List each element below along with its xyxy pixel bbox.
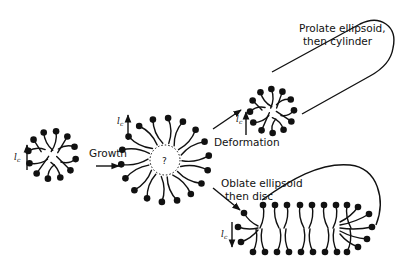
polar-head-group	[280, 126, 287, 133]
polar-head-group	[257, 89, 264, 96]
surfactant-molecules	[25, 128, 79, 182]
chain-length-arrow: lc	[14, 145, 27, 170]
polar-head-group	[201, 138, 208, 145]
polar-head-group	[288, 118, 295, 125]
hydrocarbon-tail	[309, 229, 313, 252]
hydrocarbon-tail	[309, 205, 313, 228]
polar-head-group	[272, 202, 279, 209]
polar-head-group	[192, 127, 199, 134]
polar-head-group	[53, 128, 60, 135]
surfactant-molecules	[235, 202, 376, 256]
hydrocarbon-tail	[167, 177, 177, 201]
polar-head-group	[260, 202, 267, 209]
polar-head-group	[122, 175, 129, 182]
hydrocarbon-tail	[333, 229, 337, 252]
polar-head-group	[291, 107, 298, 114]
polar-head-group	[64, 133, 71, 140]
polar-head-group	[322, 249, 329, 256]
polar-head-group	[366, 211, 373, 218]
polar-head-group	[334, 249, 341, 256]
grown-spherical-micelle: ? lc	[117, 115, 212, 205]
polar-head-group	[258, 127, 265, 134]
polar-head-group	[174, 197, 181, 204]
prolate-micelle: Prolate ellipsoid, then cylinder lc	[236, 20, 394, 136]
small-spherical-micelle: lc	[14, 128, 79, 182]
polar-head-group	[131, 187, 138, 194]
chain-length-label: lc	[14, 152, 21, 163]
polar-head-group	[159, 199, 166, 206]
hydrocarbon-tail	[173, 175, 191, 194]
oblate-label-line2: then disc	[225, 190, 273, 202]
polar-head-group	[188, 191, 195, 198]
hydrocarbon-tail	[340, 227, 372, 229]
polar-head-group	[45, 175, 52, 182]
polar-head-group	[369, 224, 376, 231]
chain-length-arrow: lc	[236, 112, 246, 135]
hydrocarbon-tail	[161, 177, 164, 202]
polar-head-group	[241, 210, 248, 217]
hydrocarbon-tail	[284, 205, 288, 228]
hydrocarbon-tail	[168, 118, 171, 143]
polar-head-group	[355, 244, 362, 251]
oblate-micelle: Oblate ellipsoid then disc lc	[221, 165, 380, 256]
polar-head-group	[165, 115, 172, 122]
polar-head-group	[136, 123, 143, 130]
polar-head-group	[310, 249, 317, 256]
prolate-label-line1: Prolate ellipsoid,	[299, 22, 386, 34]
polar-head-group	[33, 170, 40, 177]
polar-head-group	[67, 167, 74, 174]
hydrocarbon-tail	[301, 229, 305, 252]
polar-head-group	[150, 116, 157, 123]
hydrocarbon-tail	[174, 122, 183, 146]
polar-head-group	[204, 167, 211, 174]
hydrocarbon-tail	[285, 229, 289, 252]
polar-head-group	[57, 174, 64, 181]
oblate-label-line1: Oblate ellipsoid	[221, 177, 303, 189]
surfactant-molecules	[247, 86, 298, 137]
polar-head-group	[250, 249, 257, 256]
hydrocarbon-tail	[277, 229, 281, 252]
polar-head-group	[119, 146, 126, 153]
polar-head-group	[344, 202, 351, 209]
polar-head-group	[235, 224, 242, 231]
polar-head-group	[268, 86, 275, 93]
hydrocarbon-tail	[333, 205, 337, 228]
polar-head-group	[344, 249, 351, 256]
polar-head-group	[279, 88, 286, 95]
polar-head-group	[333, 202, 340, 209]
polar-head-group	[30, 136, 37, 143]
polar-head-group	[297, 202, 304, 209]
polar-head-group	[198, 180, 205, 187]
hydrocarbon-tail	[181, 142, 204, 155]
hydrocarbon-tail	[275, 205, 279, 228]
polar-head-group	[180, 118, 187, 125]
polar-head-group	[364, 236, 371, 243]
polar-head-group	[144, 195, 151, 202]
hydrocarbon-tail	[261, 229, 265, 252]
polar-head-group	[321, 202, 328, 209]
polar-head-group	[262, 249, 269, 256]
hydrocarbon-tail	[181, 166, 208, 171]
polar-head-group	[238, 239, 245, 246]
polar-head-group	[287, 96, 294, 103]
polar-head-group	[40, 129, 47, 136]
hydrocarbon-tail	[129, 136, 153, 148]
polar-head-group	[247, 108, 254, 115]
hydrocarbon-tail	[182, 156, 209, 162]
chain-length-label: lc	[236, 114, 243, 125]
polar-head-group	[72, 156, 79, 163]
polar-head-group	[274, 249, 281, 256]
deformation-label: Deformation	[214, 136, 280, 148]
polar-head-group	[71, 143, 78, 150]
polar-head-group	[250, 119, 257, 126]
polar-head-group	[118, 161, 125, 168]
polar-head-group	[269, 130, 276, 137]
disc-outline	[262, 165, 380, 225]
hydrocarbon-tail	[178, 172, 202, 184]
chain-length-label: lc	[221, 229, 228, 240]
micelle-shape-diagram: lc Growth ? lc Deformation Prolate ellip…	[0, 0, 409, 272]
hydrocarbon-tail	[340, 207, 358, 222]
chain-length-arrow: lc	[221, 222, 232, 247]
polar-head-group	[284, 202, 291, 209]
polar-head-group	[309, 202, 316, 209]
